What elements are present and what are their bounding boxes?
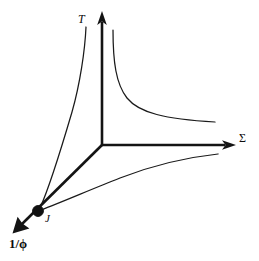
- hyperbola-upper-right-curve: [113, 30, 215, 122]
- diagonal-axis-label: 1/ϕ: [9, 237, 27, 250]
- fixed-point-dot: [33, 206, 44, 217]
- vertical-axis-label: T: [78, 13, 85, 25]
- diagram-canvas: [0, 0, 259, 261]
- fixed-point-label: J: [45, 213, 50, 224]
- horizontal-axis-label: Σ: [239, 132, 246, 144]
- rg-flow-diagram: T Σ 1/ϕ J: [0, 0, 259, 261]
- separatrix-lower-right-curve: [41, 154, 218, 210]
- separatrix-left-upper-curve: [40, 27, 86, 208]
